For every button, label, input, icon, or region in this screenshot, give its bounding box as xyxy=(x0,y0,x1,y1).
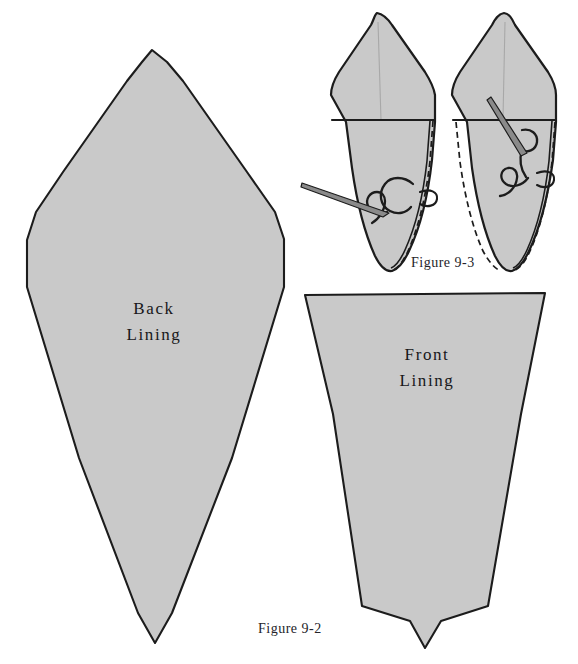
figure-caption-9-3: Figure 9-3 xyxy=(411,255,475,271)
back-lining-outline xyxy=(27,50,284,643)
stitch-detail-left-outline xyxy=(331,13,435,271)
front-lining-outline xyxy=(305,293,545,648)
stitch-detail-left xyxy=(301,13,437,271)
illustration-page: Back Lining Front Lining Figure 9-2 Figu… xyxy=(0,0,578,664)
stitch-detail-right xyxy=(452,13,556,271)
pattern-illustration-canvas xyxy=(0,0,578,664)
figure-caption-9-2: Figure 9-2 xyxy=(258,621,322,637)
back-lining-piece xyxy=(27,50,284,643)
front-lining-piece xyxy=(305,293,545,648)
